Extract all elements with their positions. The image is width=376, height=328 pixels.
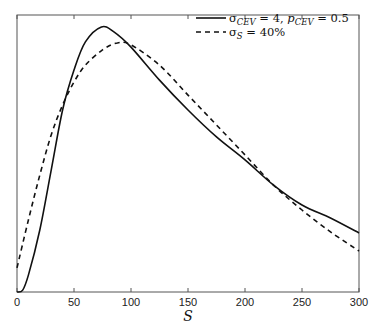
- x-tick-label: 300: [350, 296, 368, 308]
- svg-text:S: S: [183, 308, 193, 324]
- x-tick-label: 100: [122, 296, 140, 308]
- x-tick-label: 150: [179, 296, 197, 308]
- x-tick-label: 250: [293, 296, 311, 308]
- plot-frame: [17, 15, 359, 292]
- x-tick-label: 200: [236, 296, 254, 308]
- chart: 050100150200250300 S σCEV = 4, pCEV = 0.…: [0, 0, 376, 328]
- x-tick-label: 0: [14, 296, 20, 308]
- x-tick-label: 50: [68, 296, 80, 308]
- x-axis-label: S: [183, 308, 193, 324]
